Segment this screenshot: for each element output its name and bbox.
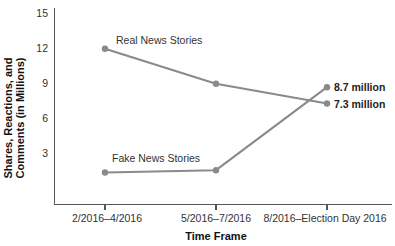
y-tick-label-12: 12: [36, 42, 48, 54]
series-label-real-news: Real News Stories: [116, 34, 202, 46]
line-chart: Shares, Reactions, and Comments (in Mill…: [0, 0, 395, 246]
series-point-fake-news-2: [324, 84, 330, 90]
chart-canvas: Shares, Reactions, and Comments (in Mill…: [0, 0, 395, 246]
series-point-real-news-0: [102, 46, 108, 52]
x-tick-label-1: 2/2016–4/2016: [72, 212, 142, 224]
y-axis-title-line2: Comments (in Millions): [14, 57, 26, 178]
series-point-fake-news-0: [102, 169, 108, 175]
annotation-real-news-value: 7.3 million: [334, 98, 385, 110]
y-tick-label-6: 6: [42, 112, 48, 124]
y-tick-label-3: 3: [42, 147, 48, 159]
x-axis-title: Time Frame: [185, 230, 247, 242]
y-tick-label-9: 9: [42, 77, 48, 89]
series-line-real-news: [105, 49, 327, 104]
series-point-real-news-2: [324, 100, 330, 106]
x-tick-label-2: 5/2016–7/2016: [181, 212, 251, 224]
series-point-real-news-1: [213, 81, 219, 87]
y-tick-label-15: 15: [36, 7, 48, 19]
series-point-fake-news-1: [213, 167, 219, 173]
series-label-fake-news: Fake News Stories: [112, 152, 200, 164]
annotation-fake-news-value: 8.7 million: [334, 81, 385, 93]
x-tick-label-3: 8/2016–Election Day 2016: [263, 212, 386, 224]
y-axis-title-line1: Shares, Reactions, and: [2, 57, 14, 178]
